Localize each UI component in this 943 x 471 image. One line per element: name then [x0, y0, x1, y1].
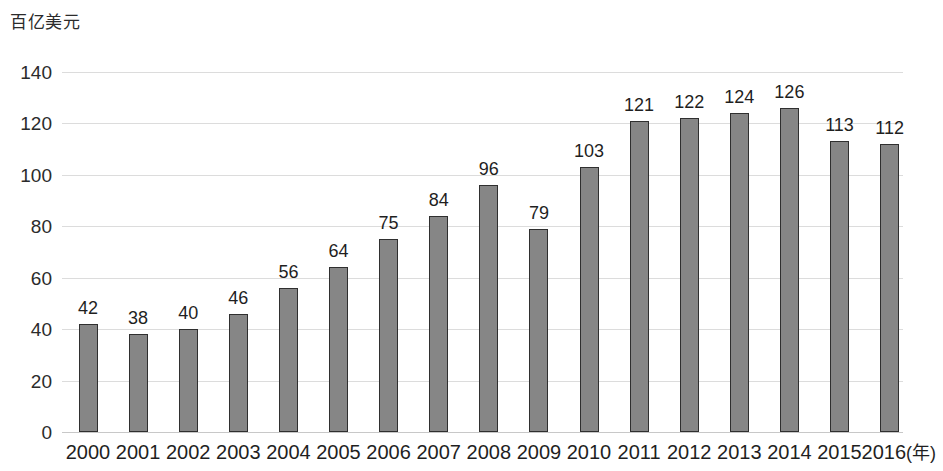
y-axis-tick-label: 100: [4, 165, 52, 184]
bar: [880, 144, 899, 432]
bar: [730, 113, 749, 432]
y-axis-tick-labels: 020406080100120140: [0, 72, 52, 432]
y-axis-tick-label: 120: [4, 114, 52, 133]
bar: [129, 334, 148, 432]
y-axis-tick-label: 20: [4, 371, 52, 390]
bar-value-label: 84: [409, 191, 469, 209]
bar-value-label: 46: [208, 289, 268, 307]
bar-value-label: 40: [158, 304, 218, 322]
bar-value-label: 64: [309, 242, 369, 260]
y-axis-tick-label: 40: [4, 320, 52, 339]
bar: [780, 108, 799, 432]
gridline: [62, 432, 903, 433]
y-axis-tick-label: 140: [4, 63, 52, 82]
gridline: [62, 72, 903, 73]
bar: [830, 141, 849, 432]
x-axis-tick-label: 2016(年): [862, 438, 943, 467]
bar: [529, 229, 548, 432]
bar: [79, 324, 98, 432]
x-axis-year-text: 2016: [862, 441, 907, 463]
bar: [479, 185, 498, 432]
y-axis-tick-label: 80: [4, 217, 52, 236]
x-axis-tick-labels: 2000200120022003200420052006200720082009…: [0, 438, 943, 471]
bar: [379, 239, 398, 432]
bar: [580, 167, 599, 432]
bar: [279, 288, 298, 432]
bar-value-label: 96: [459, 160, 519, 178]
y-axis-tick-label: 60: [4, 268, 52, 287]
bar: [429, 216, 448, 432]
bar-value-label: 112: [860, 119, 920, 137]
bar: [229, 314, 248, 432]
bar: [680, 118, 699, 432]
bar-value-label: 56: [258, 263, 318, 281]
bar-value-label: 103: [559, 142, 619, 160]
bar: [329, 267, 348, 432]
y-axis-unit-label: 百亿美元: [10, 8, 80, 33]
bar-value-label: 75: [359, 214, 419, 232]
plot-area: 4238404656647584967910312112212412611311…: [62, 72, 903, 432]
gridline: [62, 123, 903, 124]
bar: [179, 329, 198, 432]
x-axis-year-text: 2015: [817, 441, 862, 463]
bar-chart: 百亿美元 020406080100120140 4238404656647584…: [0, 0, 943, 471]
bar-value-label: 79: [509, 204, 569, 222]
bar: [630, 121, 649, 432]
x-axis-unit-suffix: (年): [906, 443, 936, 463]
bar-value-label: 126: [759, 83, 819, 101]
